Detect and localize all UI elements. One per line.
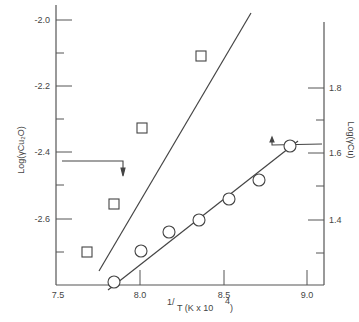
square-marker xyxy=(196,51,206,61)
y-left-tick-label: -2.0 xyxy=(34,15,50,25)
y-right-axis-title: Log(γCu) xyxy=(346,121,356,158)
circle-marker xyxy=(108,276,120,288)
x-tick-label: 9.0 xyxy=(301,290,314,300)
circle-marker xyxy=(193,214,205,226)
svg-text:T (K x 10: T (K x 10 xyxy=(177,303,213,313)
square-marker xyxy=(137,123,147,133)
y-right-tick-label: 1.6 xyxy=(329,148,342,158)
circle-marker xyxy=(163,226,175,238)
left-ticks xyxy=(56,20,72,252)
square-marker xyxy=(82,247,92,257)
circle-marker xyxy=(284,140,296,152)
y-left-tick-label: -2.2 xyxy=(34,81,50,91)
y-right-tick-label: 1.8 xyxy=(329,83,342,93)
y-left-tick-label: -2.6 xyxy=(34,214,50,224)
y-left-axis-title: Log(γCu₂O) xyxy=(16,126,26,174)
svg-text:): ) xyxy=(230,303,233,313)
y-right-tick-label: 1.4 xyxy=(329,215,342,225)
right-ticks xyxy=(308,88,324,253)
x-tick-label: 7.5 xyxy=(52,290,65,300)
cu-markers xyxy=(108,140,296,288)
left-arrow-annotation xyxy=(62,161,125,176)
chart: -2.0 -2.2 -2.4 -2.6 1.8 1.6 1.4 7.5 8.0 … xyxy=(0,0,359,322)
circle-marker xyxy=(253,174,265,186)
y-left-tick-label: -2.4 xyxy=(34,147,50,157)
x-tick-label: 8.0 xyxy=(134,290,147,300)
circle-marker xyxy=(135,245,147,257)
x-ticks xyxy=(140,270,307,285)
svg-text:1/: 1/ xyxy=(167,297,175,307)
square-marker xyxy=(109,199,119,209)
circle-marker xyxy=(223,193,235,205)
cu2o-markers xyxy=(82,51,206,257)
